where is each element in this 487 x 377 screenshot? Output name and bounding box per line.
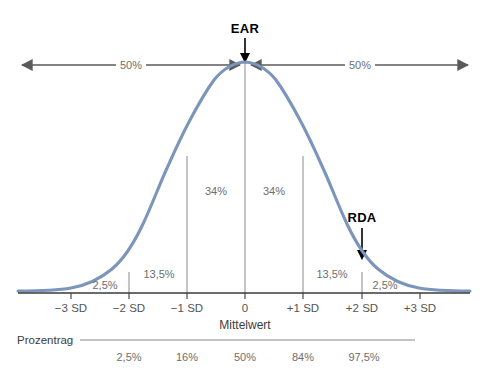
band-label-pos1-pos2: 13,5% bbox=[316, 269, 347, 280]
xtick-label-pos2sd: +2 SD bbox=[346, 303, 378, 315]
percentile-value-neg1sd: 16% bbox=[176, 352, 198, 363]
rda-label: RDA bbox=[347, 211, 376, 224]
percentile-value-pos2sd: 97,5% bbox=[348, 352, 379, 363]
xtick-label-pos1sd: +1 SD bbox=[287, 303, 319, 315]
normal-distribution-figure: EAR RDA 50% 50% 2,5% 13,5% 34% 34% 13,5%… bbox=[0, 0, 487, 377]
percentile-value-pos1sd: 84% bbox=[292, 352, 314, 363]
band-label-neg2-neg1: 13,5% bbox=[143, 269, 174, 280]
xtick-label-neg3sd: −3 SD bbox=[55, 303, 87, 315]
half-left-label: 50% bbox=[116, 60, 146, 71]
x-axis-title: Mittelwert bbox=[219, 319, 270, 331]
xtick-label-pos3sd: +3 SD bbox=[404, 303, 436, 315]
xtick-label-neg2sd: −2 SD bbox=[113, 303, 145, 315]
bell-curve bbox=[18, 62, 470, 291]
band-label-neg1-zero: 34% bbox=[205, 186, 227, 197]
xtick-label-zero: 0 bbox=[242, 303, 248, 315]
band-label-neg3-neg2: 2,5% bbox=[92, 280, 117, 291]
half-right-label: 50% bbox=[345, 60, 375, 71]
band-label-pos2-pos3: 2,5% bbox=[372, 280, 397, 291]
percentile-value-zero: 50% bbox=[234, 352, 256, 363]
percentile-rank-label: Prozentrag bbox=[17, 335, 73, 347]
percentile-value-neg2sd: 2,5% bbox=[116, 352, 141, 363]
ear-label: EAR bbox=[231, 22, 259, 35]
xtick-label-neg1sd: −1 SD bbox=[171, 303, 203, 315]
band-label-zero-pos1: 34% bbox=[263, 186, 285, 197]
